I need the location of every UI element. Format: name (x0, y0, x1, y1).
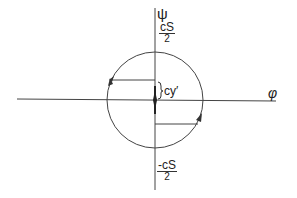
phi-axis (17, 99, 276, 101)
top-fraction-denominator: 2 (159, 34, 175, 44)
phase-diagram (0, 0, 297, 198)
lower-arc-arrowhead-icon (196, 113, 202, 122)
offset-label: cy′ (164, 85, 178, 97)
offset-brace (158, 82, 163, 99)
phi-axis-label: φ (268, 86, 277, 100)
psi-axis-label: ψ (157, 6, 168, 21)
top-fraction-label: cS 2 (159, 21, 175, 44)
bottom-fraction-denominator: 2 (157, 172, 177, 182)
bottom-fraction-label: -cS 2 (157, 159, 177, 182)
